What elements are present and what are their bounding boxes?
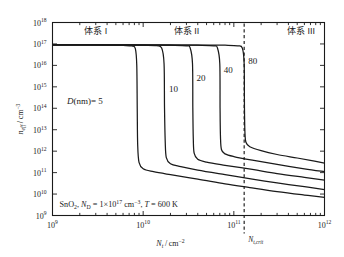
- curves-group: [53, 45, 325, 197]
- series-label-D-20: 20: [196, 73, 206, 83]
- critical-line-label: Nt,crit: [247, 235, 264, 245]
- series-label-D-40: 40: [224, 65, 234, 75]
- region-label-3: 体系 III: [287, 25, 315, 36]
- chart-annotation: SnO2, ND = 1×1017 cm−3, T = 600 K: [60, 199, 179, 210]
- series-label-D-10: 10: [169, 84, 179, 94]
- y-tick-label-10e11: 1011: [33, 167, 47, 177]
- curve-D-10: [53, 45, 325, 190]
- x-tick-label-10⁹: 109: [47, 219, 58, 229]
- axis-tick-labels: 1091010101110121091010101110121013101410…: [33, 17, 332, 229]
- series-label-D-80: 80: [248, 56, 257, 66]
- chart-plot: 1091010101110121091010101110121013101410…: [0, 0, 344, 257]
- x-tick-label-10¹²: 1012: [318, 219, 332, 229]
- y-tick-label-10e17: 1017: [33, 39, 47, 49]
- curve-D-20: [53, 45, 325, 180]
- x-tick-label-10¹⁰: 1010: [136, 219, 150, 229]
- y-tick-label-10e12: 1012: [33, 146, 47, 156]
- y-tick-label-10e16: 1016: [33, 60, 47, 70]
- y-tick-label-10e10: 1010: [33, 189, 47, 199]
- x-tick-label-10¹¹: 1011: [227, 219, 241, 229]
- plot-border: [53, 23, 325, 216]
- region-label-2: 体系 II: [174, 25, 200, 36]
- y-tick-label-10e18: 1018: [33, 17, 47, 27]
- region-label-1: 体系 I: [84, 25, 107, 36]
- figure-container: 1091010101110121091010101110121013101410…: [0, 0, 344, 257]
- y-axis-title: neff / cm−3: [15, 103, 26, 134]
- y-tick-label-10e15: 1015: [33, 82, 47, 92]
- curve-D-40: [53, 45, 325, 172]
- y-tick-label-10e13: 1013: [33, 125, 47, 135]
- y-tick-label-10e9: 109: [36, 210, 47, 220]
- y-tick-label-10e14: 1014: [33, 103, 47, 113]
- axis-ticks: [53, 23, 325, 216]
- plot-frame: [53, 23, 325, 216]
- data-curves: [53, 45, 325, 197]
- series-label-D-5: D(nm)= 5: [66, 96, 103, 106]
- x-axis-title: Nt / cm−2: [155, 238, 184, 249]
